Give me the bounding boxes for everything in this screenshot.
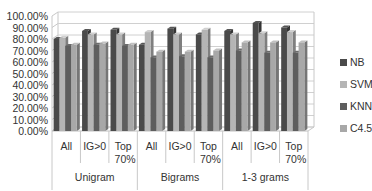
x-category-label: Top [285, 140, 302, 152]
y-tick-label: 80.00% [12, 33, 48, 45]
clustered-bar-chart: 0.00%10.00%20.00%30.00%40.00%50.00%60.00… [0, 0, 372, 191]
x-category-label: IG>0 [254, 140, 277, 152]
y-tick-label: 40.00% [12, 79, 48, 91]
legend-swatch-icon [340, 59, 347, 66]
bar: C4.5 Unigram IG>0: 76% [99, 42, 108, 131]
x-group-label: Unigram [75, 171, 115, 183]
bar: C4.5 Bigrams IG>0: 69% [185, 50, 194, 131]
x-category-label: Top [115, 140, 132, 152]
y-tick-label: 10.00% [12, 114, 48, 126]
y-axis: 0.00%10.00%20.00%30.00%40.00%50.00%60.00… [7, 10, 48, 137]
legend-item: NB [340, 56, 365, 68]
legend-label: C4.5 [350, 122, 372, 134]
x-category-label: All [60, 140, 72, 152]
bar: C4.5 Unigram Top 70%: 75% [128, 43, 137, 131]
x-group-label: Bigrams [161, 171, 200, 183]
y-tick-label: 90.00% [12, 22, 48, 34]
legend-swatch-icon [340, 103, 347, 110]
bar: C4.5 1-3 grams IG>0: 77% [270, 40, 279, 131]
y-tick-label: 60.00% [12, 56, 48, 68]
legend-label: NB [350, 56, 365, 68]
x-category-label: 70% [200, 153, 221, 165]
x-category-label: All [146, 140, 158, 152]
x-category-label: IG>0 [168, 140, 191, 152]
y-tick-label: 0.00% [18, 125, 48, 137]
bar-series: NB Unigram All: 80%SVM Unigram All: 81%K… [54, 21, 308, 131]
legend-item: C4.5 [340, 122, 372, 134]
y-tick-label: 70.00% [12, 45, 48, 57]
legend-item: KNN [340, 100, 372, 112]
y-tick-label: 100.00% [7, 10, 48, 22]
x-category-label: 70% [285, 153, 306, 165]
legend-label: SVM [350, 78, 372, 90]
legend-item: SVM [340, 78, 372, 90]
y-tick-label: 30.00% [12, 91, 48, 103]
legend-swatch-icon [340, 81, 347, 88]
y-tick-label: 20.00% [12, 102, 48, 114]
bar: C4.5 Bigrams Top 70%: 70% [213, 49, 222, 132]
x-category-label: All [231, 140, 243, 152]
x-axis: AllIG>0Top70%AllIG>0Top70%AllIG>0Top70%U… [52, 131, 308, 190]
bar: C4.5 1-3 grams All: 77% [242, 40, 251, 131]
x-category-label: IG>0 [83, 140, 106, 152]
legend: NBSVMKNNC4.5 [340, 56, 372, 134]
legend-label: KNN [350, 100, 372, 112]
x-category-label: 70% [115, 153, 136, 165]
bar: C4.5 Unigram All: 75% [71, 43, 80, 131]
y-tick-label: 50.00% [12, 68, 48, 80]
x-category-label: Top [200, 140, 217, 152]
bar: C4.5 Bigrams All: 69% [156, 50, 165, 131]
x-group-label: 1-3 grams [242, 171, 289, 183]
bar: C4.5 1-3 grams Top 70%: 77% [299, 40, 308, 131]
legend-swatch-icon [340, 125, 347, 132]
